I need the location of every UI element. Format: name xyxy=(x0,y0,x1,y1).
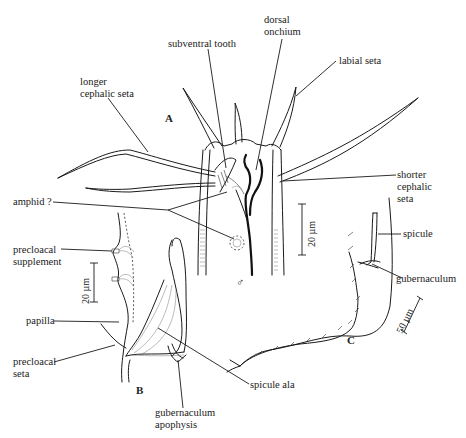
panel-label-b: B xyxy=(136,384,143,396)
nematode-illustration xyxy=(0,0,466,438)
panel-label-c: C xyxy=(347,334,355,346)
panel-b-drawing xyxy=(101,213,187,382)
label-subventral-tooth: subventral tooth xyxy=(168,38,236,50)
label-papilla: papilla xyxy=(26,315,55,327)
scale-label-panel-a: 20 µm xyxy=(306,221,317,247)
label-shorter-cephalic-seta: shorter cephalic seta xyxy=(397,169,432,205)
panel-a-head-drawing xyxy=(58,87,418,275)
scale-label-panel-b: 20 µm xyxy=(80,278,91,304)
label-labial-seta: labial seta xyxy=(339,55,381,67)
label-gubernaculum: gubernaculum xyxy=(396,273,456,285)
label-precloacal-seta: precloacal seta xyxy=(13,356,56,380)
label-spicule-ala: spicule ala xyxy=(250,379,295,391)
panel-a-scale-bar xyxy=(298,204,306,255)
label-spicule: spicule xyxy=(403,228,433,240)
label-amphid: amphid ? xyxy=(13,196,52,208)
label-longer-cephalic-seta: longer cephalic seta xyxy=(80,76,134,100)
label-dorsal-onchium: dorsal onchium xyxy=(264,14,301,38)
label-gubernaculum-apophysis: gubernaculum apophysis xyxy=(155,407,215,431)
male-symbol: ♂ xyxy=(236,276,244,288)
label-precloacal-supplement: precloacal supplement xyxy=(13,244,61,268)
panel-label-a: A xyxy=(165,112,173,124)
panel-b-scale-bar xyxy=(90,263,98,302)
